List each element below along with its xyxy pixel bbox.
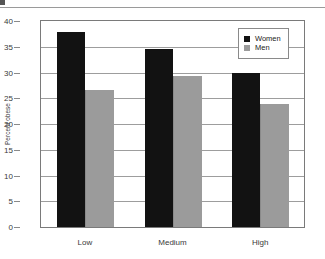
sliver-fragment-b: off: [142, 0, 151, 2]
legend-item-women[interactable]: Women: [244, 35, 281, 43]
bar-men-high: [260, 104, 289, 227]
bar-men-low: [85, 90, 114, 227]
y-axis-tick-mark: [14, 201, 20, 202]
bar-men-medium: [173, 76, 202, 227]
y-axis-tick-mark: [14, 124, 20, 125]
y-axis-tick-label: 0: [9, 223, 13, 232]
bar-women-medium: [145, 49, 173, 227]
y-axis-tick-label: 40: [4, 17, 13, 26]
y-axis: Percent obese 0510152025303540: [0, 0, 40, 259]
y-axis-tick-mark: [14, 98, 20, 99]
sliver-fragment-a: cut: [73, 0, 84, 2]
legend-item-men[interactable]: Men: [244, 44, 281, 52]
header-rule: [0, 7, 325, 8]
cropped-caption-sliver: cut off text: [0, 0, 325, 7]
y-axis-tick-label: 15: [4, 145, 13, 154]
legend-label: Men: [255, 44, 270, 52]
y-axis-tick-mark: [14, 176, 20, 177]
y-axis-tick-label: 25: [4, 94, 13, 103]
x-axis-label-low: Low: [77, 238, 92, 247]
y-axis-tick-mark: [14, 150, 20, 151]
chart-figure: cut off text Percent obese 0510152025303…: [0, 0, 325, 259]
y-axis-tick-label: 20: [4, 120, 13, 129]
sliver-fragment-c: text: [158, 0, 171, 2]
y-axis-tick-label: 35: [4, 42, 13, 51]
bar-women-low: [57, 32, 85, 227]
legend: WomenMen: [238, 28, 289, 59]
y-axis-tick-mark: [14, 47, 20, 48]
y-axis-tick-label: 30: [4, 68, 13, 77]
x-axis-label-medium: Medium: [158, 238, 186, 247]
y-axis-tick-label: 5: [9, 197, 13, 206]
bar-women-high: [232, 73, 260, 228]
y-axis-tick-mark: [14, 227, 20, 228]
y-axis-tick-label: 10: [4, 171, 13, 180]
legend-swatch-icon: [244, 36, 250, 42]
y-axis-tick-mark: [14, 73, 20, 74]
legend-label: Women: [255, 35, 281, 43]
legend-swatch-icon: [244, 45, 250, 51]
y-axis-tick-mark: [14, 21, 20, 22]
x-axis-label-high: High: [252, 238, 268, 247]
